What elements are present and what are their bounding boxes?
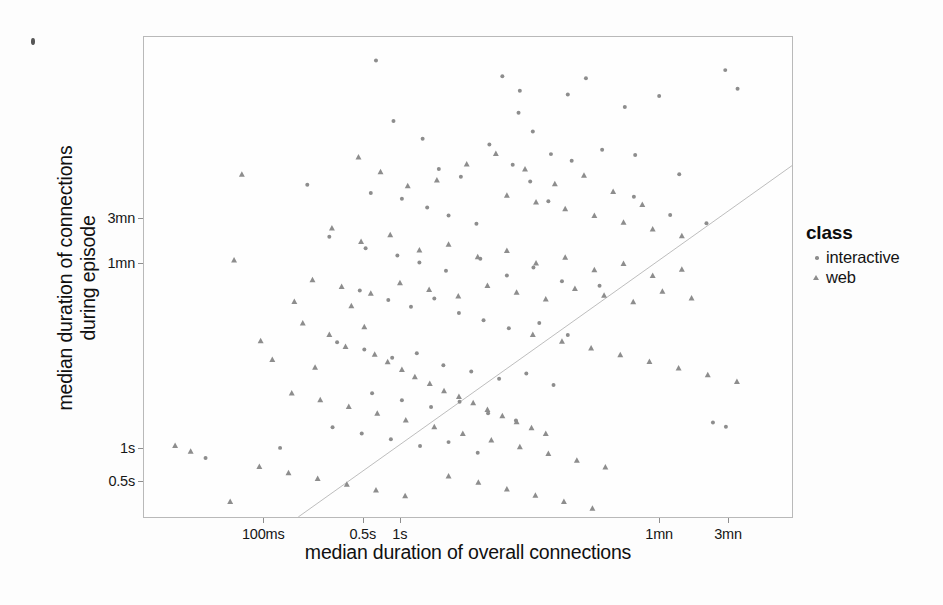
- data-point-web: [329, 225, 335, 230]
- y-axis-title-line-2: during episode: [77, 43, 100, 513]
- triangle-marker-icon: [809, 269, 825, 285]
- data-point-interactive: [395, 253, 399, 257]
- data-point-web: [533, 199, 539, 204]
- data-point-web: [368, 290, 374, 295]
- y-tick-mark: [138, 218, 143, 219]
- data-point-web: [588, 345, 594, 350]
- data-point-web: [402, 493, 408, 498]
- data-point-web: [545, 451, 551, 456]
- data-point-web: [434, 177, 440, 182]
- data-point-interactive: [524, 371, 528, 375]
- x-tick-label: 0.5s: [349, 526, 376, 542]
- data-point-interactive: [736, 87, 740, 91]
- data-point-web: [475, 479, 481, 484]
- data-point-web: [312, 364, 318, 369]
- data-point-web: [532, 492, 538, 497]
- data-point-web: [403, 417, 409, 422]
- data-point-web: [621, 219, 627, 224]
- data-point-interactive: [531, 265, 535, 269]
- x-tick-label: 1s: [392, 526, 407, 542]
- data-point-interactive: [482, 318, 486, 322]
- data-point-web: [348, 303, 354, 308]
- data-point-interactive: [677, 172, 681, 176]
- data-point-web: [405, 183, 411, 188]
- data-point-web: [412, 374, 418, 379]
- data-point-interactive: [327, 235, 331, 239]
- data-point-web: [488, 437, 494, 442]
- data-point-web: [397, 280, 403, 285]
- data-point-web: [426, 286, 432, 291]
- data-point-interactive: [517, 111, 521, 115]
- data-point-web: [591, 267, 597, 272]
- data-point-interactive: [447, 214, 451, 218]
- data-point-web: [441, 388, 447, 393]
- data-point-web: [529, 425, 535, 430]
- legend-item-label: web: [826, 268, 856, 287]
- data-point-interactive: [474, 222, 478, 226]
- data-point-interactive: [476, 451, 480, 455]
- x-tick-mark: [728, 518, 729, 523]
- data-point-interactive: [570, 159, 574, 163]
- data-point-interactive: [511, 163, 515, 167]
- scatter-canvas: [144, 37, 792, 517]
- x-tick-mark: [263, 518, 264, 523]
- data-point-web: [258, 338, 264, 343]
- data-point-web: [372, 351, 378, 356]
- data-point-web: [734, 379, 740, 384]
- legend-item-web[interactable]: web: [809, 267, 941, 287]
- data-point-interactive: [370, 391, 374, 395]
- data-point-interactive: [528, 179, 532, 183]
- data-point-interactive: [417, 261, 421, 265]
- data-point-web: [504, 248, 510, 253]
- data-point-web: [399, 367, 405, 372]
- y-tick-mark: [138, 448, 143, 449]
- data-point-web: [378, 169, 384, 174]
- data-point-interactive: [441, 363, 445, 367]
- x-tick-mark: [659, 518, 660, 523]
- data-point-web: [343, 344, 349, 349]
- data-point-interactive: [364, 246, 368, 250]
- data-point-web: [269, 356, 275, 361]
- data-point-web: [589, 505, 595, 510]
- data-point-interactive: [415, 351, 419, 355]
- data-point-interactive: [623, 105, 627, 109]
- data-point-web: [385, 359, 391, 364]
- y-tick-mark: [138, 481, 143, 482]
- data-point-interactive: [469, 370, 473, 374]
- data-point-web: [446, 241, 452, 246]
- data-point-web: [581, 172, 587, 177]
- data-point-interactive: [409, 305, 413, 309]
- data-point-web: [621, 260, 627, 265]
- data-point-interactive: [400, 398, 404, 402]
- scan-artifact-speck: [31, 38, 35, 45]
- data-point-web: [639, 201, 645, 206]
- data-point-interactive: [358, 288, 362, 292]
- data-point-interactive: [278, 446, 282, 450]
- data-point-web: [291, 298, 297, 303]
- data-point-web: [543, 296, 549, 301]
- data-point-interactive: [505, 274, 509, 278]
- data-point-web: [591, 212, 597, 217]
- data-point-web: [504, 192, 510, 197]
- data-point-interactive: [657, 94, 661, 98]
- data-point-web: [650, 272, 656, 277]
- data-point-web: [470, 400, 476, 405]
- legend-item-label: interactive: [826, 248, 900, 267]
- data-point-interactive: [429, 405, 433, 409]
- data-point-interactive: [531, 130, 535, 134]
- data-point-web: [533, 260, 539, 265]
- y-axis-title: median duration of connections during ep…: [54, 43, 100, 513]
- legend-item-interactive[interactable]: interactive: [809, 247, 941, 267]
- data-point-interactive: [400, 197, 404, 201]
- data-point-interactive: [497, 377, 501, 381]
- data-point-web: [601, 292, 607, 297]
- data-point-interactive: [566, 93, 570, 97]
- data-point-interactive: [633, 153, 637, 157]
- data-point-web: [387, 232, 393, 237]
- data-point-web: [464, 161, 470, 166]
- legend-title: class: [806, 222, 941, 244]
- data-point-web: [630, 299, 636, 304]
- x-tick-label: 100ms: [242, 526, 285, 542]
- data-point-web: [227, 499, 233, 504]
- data-point-interactive: [421, 137, 425, 141]
